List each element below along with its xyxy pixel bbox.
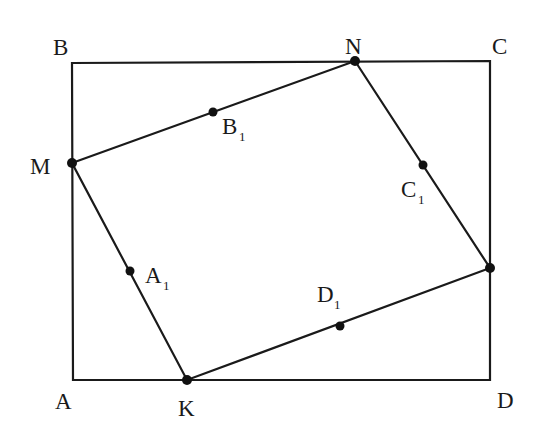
svg-text:C: C [401, 177, 416, 202]
point-c1 [419, 161, 428, 170]
label-d: D [497, 388, 514, 413]
point-p [485, 263, 495, 273]
rectangle-abcd [72, 61, 490, 380]
inner-quadrilateral [72, 61, 490, 380]
label-d1: D 1 [317, 282, 341, 312]
point-a1 [126, 267, 135, 276]
svg-text:1: 1 [239, 129, 246, 144]
label-n: N [345, 34, 362, 59]
label-m: M [30, 154, 50, 179]
svg-text:A: A [145, 263, 162, 288]
point-m [67, 158, 77, 168]
label-a1: A 1 [145, 263, 170, 293]
svg-text:1: 1 [334, 297, 341, 312]
label-b: B [53, 35, 68, 60]
svg-text:B: B [222, 114, 237, 139]
svg-text:1: 1 [163, 278, 170, 293]
point-k [182, 375, 192, 385]
svg-text:1: 1 [418, 192, 425, 207]
label-k: K [178, 396, 195, 421]
label-c: C [492, 34, 507, 59]
point-b1 [209, 108, 218, 117]
point-d1 [336, 322, 345, 331]
label-b1: B 1 [222, 114, 246, 144]
svg-text:D: D [317, 282, 334, 307]
geometry-diagram: A B C D M N K A 1 B 1 C 1 D 1 [0, 0, 547, 440]
label-a: A [55, 389, 72, 414]
label-c1: C 1 [401, 177, 425, 207]
